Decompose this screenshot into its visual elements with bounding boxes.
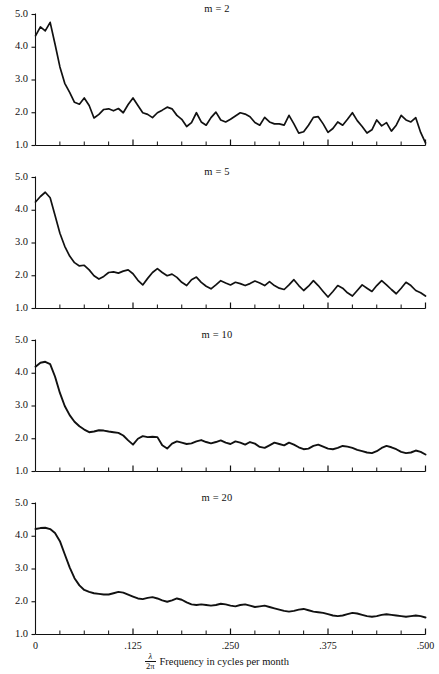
x-tick-label: .375 [308, 640, 348, 651]
plot-area-10 [0, 326, 434, 486]
chart-panel-m20: m = 20 5.04.03.02.01.0 [0, 489, 434, 649]
spectral-density-line-m20 [36, 528, 426, 618]
spectral-density-line-m2 [36, 22, 426, 143]
x-tick-label: .500 [406, 640, 439, 651]
plot-area-2 [0, 0, 434, 160]
lambda-over-two-pi-fraction: λ 2π [145, 652, 156, 671]
x-axis-title: λ 2π Frequency in cycles per month [0, 652, 434, 671]
x-axis-title-text: Frequency in cycles per month [160, 656, 289, 667]
x-tick-label: .250 [211, 640, 251, 651]
spectral-density-line-m5 [36, 192, 426, 297]
x-tick-label: .125 [113, 640, 153, 651]
plot-area-5 [0, 163, 434, 323]
chart-panel-m5: m = 5 5.04.03.02.01.0 [0, 163, 434, 323]
x-tick-label: 0 [16, 640, 56, 651]
chart-panel-m10: m = 10 5.04.03.02.01.0 [0, 326, 434, 486]
plot-area-20 [0, 489, 434, 649]
spectral-density-line-m10 [36, 362, 426, 455]
chart-panel-m2: m = 2 5.04.03.02.01.0 [0, 0, 434, 160]
fraction-denominator: 2π [145, 662, 156, 671]
